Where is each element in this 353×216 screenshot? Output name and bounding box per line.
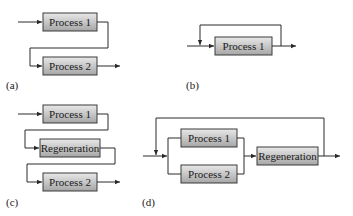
caption-c: (c) [6, 196, 19, 209]
diagram-b: Process 1 (b) [186, 25, 296, 92]
process-2-label: Process 2 [49, 176, 91, 188]
diagram-a: Process 1 Process 2 (a) [6, 13, 120, 92]
process-1-label: Process 1 [223, 40, 265, 52]
caption-b: (b) [186, 79, 199, 92]
caption-d: (d) [142, 196, 155, 209]
process-2-label: Process 2 [49, 60, 91, 72]
process-2-label: Process 2 [188, 168, 230, 180]
diagram-c: Process 1 Regeneration Process 2 (c) [6, 105, 120, 209]
process-1-label: Process 1 [49, 16, 91, 28]
process-1-label: Process 1 [188, 132, 230, 144]
regeneration-label: Regeneration [41, 142, 100, 154]
process-1-label: Process 1 [49, 108, 91, 120]
merge-connector [237, 138, 244, 174]
process-diagrams: Process 1 Process 2 (a) Process 1 (b) Pr… [0, 0, 353, 216]
caption-a: (a) [6, 79, 19, 92]
split-connector [168, 138, 181, 174]
diagram-d: Process 1 Process 2 Regeneration (d) [142, 118, 340, 209]
regeneration-label: Regeneration [258, 150, 317, 162]
